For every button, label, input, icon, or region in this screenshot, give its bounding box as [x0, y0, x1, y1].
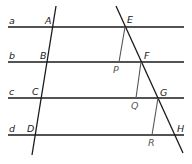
segment-fq: [136, 62, 141, 98]
label-a: a: [9, 15, 15, 26]
label-H: H: [177, 123, 184, 134]
label-G: G: [160, 87, 167, 98]
transversal-left: [32, 6, 56, 155]
segment-ep: [119, 27, 125, 62]
label-Q: Q: [131, 100, 139, 111]
label-d: d: [9, 123, 16, 134]
transversal-right: [116, 6, 183, 153]
label-c: c: [9, 86, 15, 97]
label-P: P: [113, 64, 119, 75]
label-R: R: [148, 137, 155, 148]
label-B: B: [40, 50, 47, 61]
label-D: D: [27, 123, 34, 134]
label-E: E: [127, 14, 133, 25]
label-F: F: [144, 50, 150, 61]
label-b: b: [9, 50, 15, 61]
label-C: C: [32, 86, 39, 97]
segment-gr: [152, 98, 158, 135]
geometry-diagram: a b c d A B C D E F G H P Q R: [0, 0, 192, 164]
label-A: A: [44, 15, 52, 26]
